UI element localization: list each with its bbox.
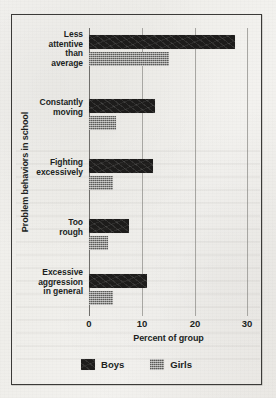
bar-boys-fighting-excessively <box>89 159 153 173</box>
x-tick-20: 20 <box>190 318 201 329</box>
bar-girls-fighting-excessively <box>89 176 113 190</box>
bar-boys-less-attentive <box>89 35 235 49</box>
bar-girls-less-attentive <box>89 52 169 66</box>
y-axis-category-labels: Less attentive than average Constantly m… <box>0 28 85 316</box>
chart-legend: Boys Girls <box>11 355 262 373</box>
bar-boys-constantly-moving <box>89 99 155 113</box>
legend-label-boys: Boys <box>101 359 124 370</box>
plot-area <box>89 28 248 316</box>
legend-label-girls: Girls <box>170 359 192 370</box>
x-tick-10: 10 <box>137 318 148 329</box>
figure-canvas: Problem behaviors in school Less attenti… <box>0 0 276 398</box>
legend-swatch-girls-icon <box>150 359 164 370</box>
x-tick-30: 30 <box>242 318 253 329</box>
category-label-constantly-moving: Constantly moving <box>40 98 83 117</box>
x-axis-tick-labels: 0 10 20 30 <box>89 318 248 332</box>
bars-layer <box>89 28 248 316</box>
legend-item-girls: Girls <box>150 359 192 370</box>
bar-girls-too-rough <box>89 236 108 250</box>
x-tick-0: 0 <box>86 318 91 329</box>
bar-boys-excessive-aggression <box>89 274 147 288</box>
category-label-fighting-excessively: Fighting excessively <box>36 158 83 177</box>
legend-item-boys: Boys <box>81 359 124 370</box>
x-axis-title: Percent of group <box>89 333 248 343</box>
bar-girls-constantly-moving <box>89 116 116 130</box>
category-label-excessive-aggression: Excessive aggression in general <box>38 268 83 297</box>
bar-girls-excessive-aggression <box>89 291 113 305</box>
category-label-too-rough: Too rough <box>59 218 83 237</box>
category-label-less-attentive: Less attentive than average <box>48 30 83 68</box>
legend-swatch-boys-icon <box>81 359 95 370</box>
bar-boys-too-rough <box>89 219 129 233</box>
